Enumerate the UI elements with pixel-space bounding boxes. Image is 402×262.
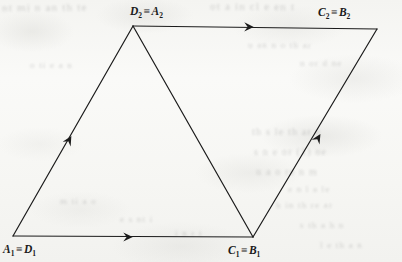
vertex-label-bottom-left: A1≡D1 [3,243,36,258]
geometry-diagram [0,0,402,262]
vertex-label-top-right: C2≡B2 [318,6,350,21]
edge-bottom-edge [13,236,253,237]
arrow-left-edge-icon [63,136,72,147]
edge-left-edge [13,26,133,236]
edge-right-edge [253,29,377,237]
vertex-label-top-left: D2≡A2 [130,5,163,20]
edge-diagonal-edge [133,26,253,237]
edge-top-edge [133,26,377,29]
vertex-label-bottom-right: C1≡B1 [228,244,260,259]
edges-group [13,26,377,237]
edge-direction-arrows [63,22,321,241]
figure-canvas: nt mi n an th teot a in cl e en tu an n … [0,0,402,262]
